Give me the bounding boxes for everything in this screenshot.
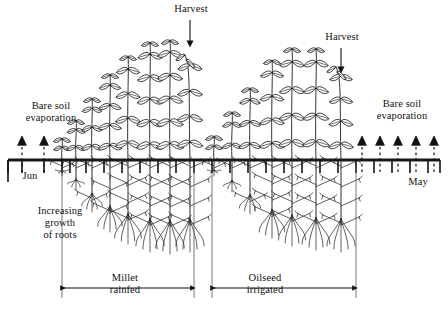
bare-soil-evaporation-label-right: Bare soil evaporation xyxy=(358,98,446,122)
root-lateral xyxy=(252,172,272,182)
increasing-root-growth-label: Increasing growth of roots xyxy=(14,205,106,240)
root-fibrous xyxy=(136,219,150,246)
plant-shoot xyxy=(176,54,203,160)
root-fibrous xyxy=(110,206,122,226)
root-fibrous xyxy=(266,210,272,235)
root-lateral xyxy=(129,212,150,223)
plant-stem xyxy=(292,48,293,160)
harvest-label-millet: Harvest xyxy=(155,3,227,15)
root-fibrous xyxy=(309,218,316,247)
root-fibrous xyxy=(327,219,341,246)
evaporation-arrow xyxy=(358,136,366,172)
shoot-layer xyxy=(54,40,354,160)
plant-stem xyxy=(250,88,251,160)
root-fibrous xyxy=(110,206,116,229)
plant-stem xyxy=(316,48,317,160)
root-fibrous xyxy=(190,219,204,246)
month-label-start: Jun xyxy=(8,170,52,182)
root-lateral xyxy=(170,196,191,207)
root-lateral xyxy=(316,195,337,206)
root-fibrous xyxy=(341,219,355,246)
evaporation-arrow-layer xyxy=(18,136,438,172)
plant-stem xyxy=(150,42,151,160)
root-lateral xyxy=(341,214,362,225)
root-lateral xyxy=(341,195,362,206)
plant-stem xyxy=(272,60,273,160)
evaporation-arrow-head xyxy=(430,136,438,145)
root-fibrous xyxy=(170,220,184,248)
evaporation-arrow xyxy=(430,136,438,172)
evaporation-arrow-head xyxy=(18,136,26,145)
root-fibrous xyxy=(245,195,250,211)
plant-stem xyxy=(62,138,63,160)
plant-shoot xyxy=(222,112,241,160)
root-fibrous xyxy=(334,219,341,249)
soil-line-group xyxy=(8,160,440,173)
root-lateral xyxy=(250,192,267,201)
root-fibrous xyxy=(115,214,128,238)
soil-tick-marks xyxy=(8,160,440,173)
root-lateral xyxy=(292,175,313,186)
evaporation-arrow-head xyxy=(40,136,48,145)
root-lateral xyxy=(295,211,316,222)
evaporation-arrow-head xyxy=(376,136,384,145)
evaporation-arrow-head xyxy=(394,136,402,145)
root-fibrous xyxy=(259,210,272,232)
root-lateral xyxy=(272,190,292,200)
root-lateral xyxy=(316,176,337,187)
root-fibrous xyxy=(62,170,69,171)
root-fibrous xyxy=(143,219,150,249)
root-lateral xyxy=(110,180,129,190)
root-lateral xyxy=(271,173,292,184)
plant-stem xyxy=(110,74,111,160)
root-fibrous xyxy=(285,215,292,243)
evaporation-arrow xyxy=(394,136,402,172)
plant-shoot xyxy=(279,48,305,160)
root-fibrous xyxy=(121,214,128,241)
plant-stem xyxy=(76,120,77,160)
evaporation-arrow-head xyxy=(412,136,420,145)
root-lateral xyxy=(252,188,272,198)
span-label-millet-rainfed: Millet rainfed xyxy=(82,272,168,296)
root-fibrous xyxy=(239,195,250,208)
root-lateral xyxy=(108,173,128,183)
plant-root xyxy=(252,156,292,238)
root-lateral xyxy=(149,175,170,186)
root-lateral xyxy=(190,176,211,187)
plant-shoot xyxy=(206,136,223,160)
plant-stem xyxy=(170,40,171,160)
evaporation-arrow xyxy=(376,136,384,172)
plant-stem xyxy=(214,136,215,160)
root-lateral xyxy=(108,190,128,200)
month-label-end: May xyxy=(396,176,440,188)
root-lateral xyxy=(170,177,191,188)
root-fibrous xyxy=(302,218,316,244)
plant-shoot xyxy=(327,66,353,160)
span-label-oilseed-irrigated: Oilseed irrigated xyxy=(222,272,308,296)
plant-shoot xyxy=(239,88,261,160)
root-fibrous xyxy=(156,220,170,248)
bare-soil-evaporation-label-left: Bare soil evaporation xyxy=(4,100,98,124)
root-fibrous xyxy=(76,179,80,187)
root-fibrous xyxy=(214,170,221,171)
root-lateral xyxy=(190,195,211,206)
plant-stem xyxy=(232,112,233,160)
root-fibrous xyxy=(72,179,76,187)
root-fibrous xyxy=(228,180,232,189)
root-lateral xyxy=(169,212,190,223)
plant-root xyxy=(149,155,192,254)
figure-canvas: Bare soil evaporation Bare soil evaporat… xyxy=(0,0,448,311)
root-fibrous xyxy=(292,215,299,243)
root-lateral xyxy=(91,178,110,188)
evaporation-arrow xyxy=(412,136,420,172)
root-fibrous xyxy=(232,180,236,189)
root-fibrous xyxy=(163,220,170,251)
root-lateral xyxy=(190,214,211,225)
plant-shoot xyxy=(303,48,329,160)
root-lateral xyxy=(149,194,170,205)
plant-stem xyxy=(128,56,129,160)
root-lateral xyxy=(341,176,362,187)
cropping-cycle-diagram xyxy=(0,0,448,311)
root-lateral xyxy=(214,161,228,168)
root-lateral xyxy=(316,213,337,224)
